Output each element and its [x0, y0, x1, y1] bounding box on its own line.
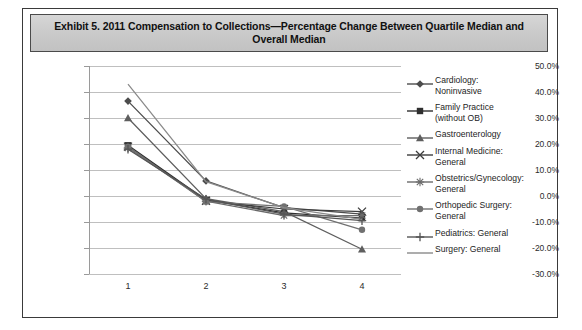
- exhibit-frame: Exhibit 5. 2011 Compensation to Collecti…: [22, 8, 558, 318]
- legend-item[interactable]: Surgery: General: [407, 244, 559, 257]
- series-point: [358, 245, 366, 252]
- legend-item[interactable]: Family Practice (without OB): [407, 102, 559, 123]
- exhibit-title: Exhibit 5. 2011 Compensation to Collecti…: [41, 20, 537, 46]
- series-point: [359, 227, 365, 233]
- legend-item-label: Obstetrics/Gynecology: General: [435, 173, 524, 194]
- chart-area: 50.0%40.0%30.0%20.0%10.0%0.0%-10.0%-20.0…: [23, 53, 559, 317]
- legend-item[interactable]: Obstetrics/Gynecology: General: [407, 173, 559, 194]
- x-marker-icon: [407, 147, 433, 159]
- legend-item-label: Surgery: General: [435, 244, 500, 255]
- legend-item[interactable]: Internal Medicine: General: [407, 146, 559, 167]
- circle-marker-icon: [407, 201, 433, 213]
- legend-item-label: Gastroenterology: [435, 129, 501, 140]
- line-marker-icon: [407, 245, 433, 257]
- legend-item-label: Pediatrics: General: [435, 228, 508, 239]
- triangle-marker-icon: [407, 130, 433, 142]
- legend-item[interactable]: Orthopedic Surgery: General: [407, 200, 559, 221]
- legend-item-label: Family Practice (without OB): [435, 102, 494, 123]
- plus-marker-icon: [407, 229, 433, 241]
- series-line: [128, 101, 362, 214]
- series-point: [124, 114, 132, 121]
- legend-item-label: Orthopedic Surgery: General: [435, 200, 512, 221]
- diamond-marker-icon: [407, 76, 433, 88]
- series-line: [128, 147, 362, 212]
- legend-item-label: Internal Medicine: General: [435, 146, 503, 167]
- series-line: [128, 84, 362, 219]
- legend-item[interactable]: Gastroenterology: [407, 129, 559, 142]
- legend-item[interactable]: Pediatrics: General: [407, 228, 559, 241]
- square-marker-icon: [407, 103, 433, 115]
- legend-item[interactable]: Cardiology: Noninvasive: [407, 75, 559, 96]
- star-marker-icon: [407, 174, 433, 186]
- legend-item-label: Cardiology: Noninvasive: [435, 75, 482, 96]
- exhibit-title-bar: Exhibit 5. 2011 Compensation to Collecti…: [30, 14, 548, 52]
